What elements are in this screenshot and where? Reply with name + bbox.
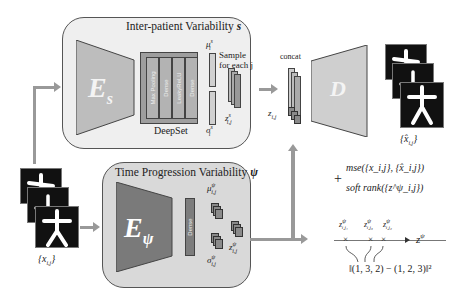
sigma-s-bar	[209, 91, 216, 125]
deepset-label: DeepSet	[154, 125, 188, 136]
sample-for-each-j-label: Sample for each j	[219, 50, 253, 70]
mu-psi-box-3	[215, 209, 223, 219]
z-psi-label: zψi,j	[229, 241, 237, 254]
deepset-layer-dense-1: Dense	[159, 57, 172, 119]
mu-s-label: μsi	[206, 38, 211, 51]
input-to-top-line-vertical	[33, 88, 36, 164]
mu-s-bar	[209, 53, 216, 87]
sigma-s-label: σsi	[206, 124, 210, 137]
z-psi-axis-label: zψ	[416, 232, 425, 245]
concat-label: concat	[280, 52, 301, 61]
input-label: {xi,j}	[38, 253, 55, 266]
arrow-head-to-axis	[301, 234, 308, 244]
sigma-psi-box-3	[215, 239, 223, 249]
concat-psi-box-3	[294, 115, 301, 124]
deepset-layer-max-pooling: Max Pooling	[146, 57, 159, 119]
bottom-panel-to-axis-line	[250, 238, 302, 241]
z-s-stack-3	[234, 74, 241, 108]
rank-brackets	[338, 244, 398, 264]
concat-z-label: zi,j	[268, 108, 276, 120]
encoder-s-label: Es	[88, 72, 113, 108]
concat-bar-3	[294, 76, 301, 116]
axis-point-label-1: zψi,j₁	[339, 218, 348, 230]
arrow-head-to-top-panel	[54, 82, 61, 92]
z-psi-box-3	[235, 227, 243, 237]
rank-formula: ‖(1, 3, 2) − (1, 2, 3)‖²	[349, 263, 432, 274]
z-psi-axis-arrowhead	[405, 237, 410, 243]
arrow-head-to-concat	[271, 84, 278, 94]
decoder-label: D	[330, 76, 346, 102]
axis-point-marker-2: ×	[368, 234, 373, 244]
z-s-label: zsi,j	[225, 112, 232, 125]
input-to-bottom-line	[80, 226, 94, 229]
arrow-head-up-to-concat	[288, 144, 298, 151]
time-progression-title: Time Progression Variability ψ	[115, 166, 258, 178]
loss-soft-rank: soft rank({z^ψ_i,j})	[346, 182, 423, 193]
z-psi-axis-line	[334, 240, 446, 241]
input-image-3	[35, 206, 79, 248]
axis-point-label-2: zψi,j₃	[364, 218, 373, 230]
encoder-psi-label: Eψ	[124, 212, 153, 248]
deepset-layer-leakyrelu: LeakyReLU	[172, 57, 185, 119]
output-image-3	[400, 82, 444, 128]
inter-patient-title: Inter-patient Variability s	[126, 20, 241, 32]
loss-mse: mse({x_i,j}, {x̂_i,j})	[346, 162, 424, 173]
input-to-top-line-horizontal	[33, 86, 55, 89]
axis-point-marker-3: ×	[381, 234, 386, 244]
loss-to-concat-line	[291, 150, 295, 240]
output-label: {x̂i,j}	[400, 133, 417, 146]
arrow-head-to-bottom-panel	[93, 222, 100, 232]
mu-psi-label: μψi,j	[207, 182, 216, 195]
loss-plus-sign: +	[334, 171, 342, 187]
deepset-layer-dense-2: Dense	[185, 57, 198, 119]
sigma-psi-label: σψi,j	[207, 254, 216, 267]
dense-layer-psi: Dense	[185, 198, 195, 256]
axis-point-marker-1: ×	[343, 234, 348, 244]
axis-point-label-3: zψi,j₂	[383, 218, 392, 230]
